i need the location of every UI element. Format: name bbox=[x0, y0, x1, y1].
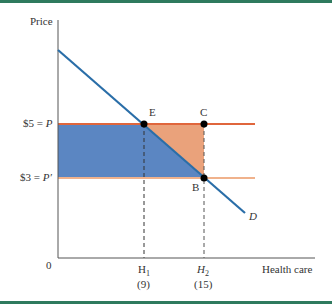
origin-label: 0 bbox=[46, 259, 52, 271]
h1-sub: 1 bbox=[146, 269, 150, 278]
h2-sub: 2 bbox=[205, 269, 209, 278]
h2-label: H2 bbox=[197, 263, 209, 278]
h1-label: H1 bbox=[138, 263, 150, 278]
price-label-p-prime: $3 = P′ bbox=[20, 171, 52, 183]
price-label-p-symbol: P bbox=[46, 117, 53, 129]
y-axis-label: Price bbox=[30, 15, 53, 27]
h1-base: H bbox=[138, 263, 146, 275]
point-e bbox=[141, 121, 148, 128]
price-label-p: $5 = P bbox=[23, 117, 52, 129]
price-label-p-prime-value: $3 = bbox=[20, 171, 43, 183]
h1-value: (9) bbox=[137, 278, 150, 290]
label-d: D bbox=[249, 210, 257, 222]
x-axis-label: Health care bbox=[262, 263, 312, 275]
price-label-p-prime-symbol: P′ bbox=[43, 171, 52, 183]
label-c: C bbox=[200, 106, 207, 118]
h2-value: (15) bbox=[194, 278, 212, 290]
h2-base: H bbox=[197, 263, 205, 275]
label-b: B bbox=[192, 181, 199, 193]
point-c bbox=[201, 121, 208, 128]
point-b bbox=[201, 175, 208, 182]
price-label-p-value: $5 = bbox=[23, 117, 46, 129]
label-e: E bbox=[149, 106, 156, 118]
